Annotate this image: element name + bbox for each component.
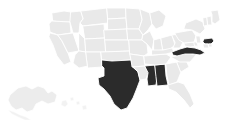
state-rhode-island[interactable] — [209, 44, 212, 47]
state-oregon[interactable] — [49, 21, 71, 35]
state-arkansas[interactable] — [130, 54, 145, 67]
state-kansas[interactable] — [105, 40, 130, 52]
state-colorado[interactable] — [85, 38, 106, 52]
state-massachusetts[interactable] — [203, 38, 214, 44]
state-north-dakota[interactable] — [107, 8, 126, 19]
state-connecticut[interactable] — [203, 44, 209, 48]
state-wyoming[interactable] — [83, 24, 105, 39]
us-choropleth-map: Selected Not selected — [0, 0, 225, 136]
state-south-dakota[interactable] — [108, 18, 127, 30]
state-tennessee[interactable] — [144, 54, 171, 65]
state-montana[interactable] — [80, 8, 108, 26]
map-canvas — [0, 0, 225, 136]
hawaii-island-4 — [82, 105, 87, 110]
state-new-mexico[interactable] — [86, 52, 102, 68]
state-nebraska[interactable] — [104, 29, 128, 40]
hawaii-island-3 — [76, 101, 80, 105]
hawaii-island-2 — [70, 97, 74, 101]
state-oklahoma[interactable] — [101, 51, 131, 61]
state-new-jersey[interactable] — [196, 36, 201, 43]
state-new-hampshire[interactable] — [207, 16, 212, 25]
